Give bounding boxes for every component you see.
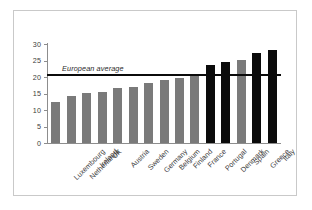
- bar-belgium: [160, 80, 169, 143]
- y-tick-label: 10: [33, 107, 41, 114]
- y-tick-label: 20: [33, 74, 41, 81]
- bar-greece: [252, 53, 261, 143]
- european-average-label: European average: [62, 64, 124, 73]
- y-tick-label: 15: [33, 90, 41, 97]
- y-tick-label: 30: [33, 41, 41, 48]
- bar-chart-figure: 051015202530 European average Luxembourg…: [0, 0, 312, 210]
- bar-finland: [175, 78, 184, 143]
- european-average-line: [47, 74, 281, 76]
- bar-germany: [144, 83, 153, 143]
- bar-spain: [237, 60, 246, 143]
- bar-austria: [113, 88, 122, 143]
- y-tick-mark: [44, 143, 48, 144]
- bar-ireland: [82, 93, 91, 143]
- y-tick-label: 5: [37, 123, 41, 130]
- bar-sweden: [129, 87, 138, 143]
- bar-france: [190, 74, 199, 143]
- plot-area: [48, 44, 280, 143]
- bar-netherlands: [67, 96, 76, 143]
- y-tick-label: 25: [33, 57, 41, 64]
- bar-portugal: [206, 65, 215, 143]
- x-axis-line: [47, 143, 281, 144]
- bar-italy: [268, 50, 277, 143]
- y-tick-label: 0: [37, 140, 41, 147]
- bar-uk: [98, 92, 107, 143]
- bar-luxembourg: [51, 102, 60, 143]
